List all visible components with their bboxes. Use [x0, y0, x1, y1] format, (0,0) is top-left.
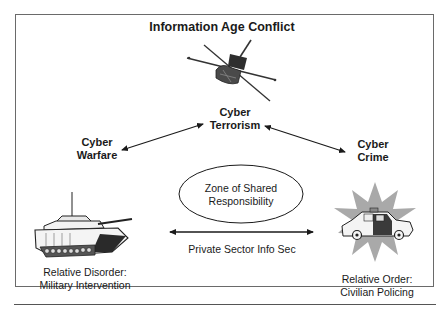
tank-icon: [35, 192, 132, 257]
node-cyber-warfare-line1: Cyber: [72, 136, 122, 149]
arrow-warfare-terrorism: [122, 124, 203, 150]
node-zone-line2: Responsibility: [190, 195, 292, 208]
node-cyber-warfare: Cyber Warfare: [72, 136, 122, 162]
node-cyber-terrorism: Cyber Terrorism: [200, 106, 270, 132]
node-zone: Zone of Shared Responsibility: [190, 182, 292, 208]
node-cyber-terrorism-line2: Terrorism: [200, 119, 270, 132]
police-car-icon: [334, 182, 416, 262]
satellite-icon: [187, 40, 276, 101]
edge-label-private-sector: Private Sector Info Sec: [180, 243, 304, 256]
node-cyber-warfare-line2: Warfare: [72, 149, 122, 162]
node-cyber-crime-line2: Crime: [350, 151, 396, 164]
node-zone-line1: Zone of Shared: [190, 182, 292, 195]
arrow-terrorism-crime: [265, 126, 345, 152]
node-military-line2: Military Intervention: [30, 279, 140, 292]
node-cyber-crime: Cyber Crime: [350, 138, 396, 164]
node-military-line1: Relative Disorder:: [30, 266, 140, 279]
node-civilian-line2: Civilian Policing: [332, 286, 422, 299]
node-cyber-crime-line1: Cyber: [350, 138, 396, 151]
node-cyber-terrorism-line1: Cyber: [200, 106, 270, 119]
node-civilian: Relative Order: Civilian Policing: [332, 273, 422, 299]
node-civilian-line1: Relative Order:: [332, 273, 422, 286]
node-military: Relative Disorder: Military Intervention: [30, 266, 140, 292]
